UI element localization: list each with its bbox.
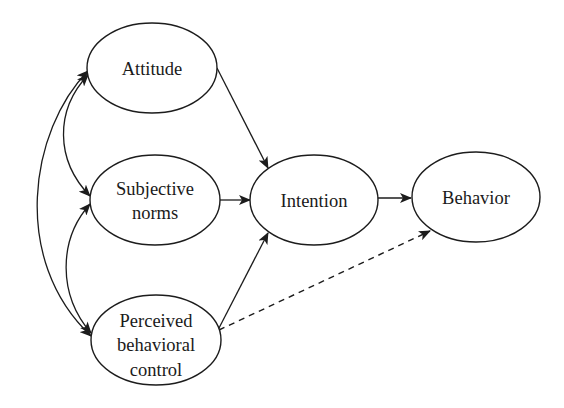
correlation-attitude-subjective-norms	[63, 75, 90, 196]
node-attitude-label: Attitude	[122, 59, 183, 79]
node-subjective-norms-ellipse	[90, 155, 220, 245]
node-behavior-label: Behavior	[442, 188, 510, 208]
correlation-attitude-pbc	[37, 71, 91, 336]
arrow-pbc-to-intention	[218, 233, 268, 330]
node-subjective-norms-label-line1: Subjective	[116, 179, 194, 199]
node-attitude: Attitude	[87, 23, 217, 113]
node-behavior: Behavior	[412, 152, 540, 242]
node-subjective-norms: Subjective norms	[90, 155, 220, 245]
node-intention-label: Intention	[281, 191, 348, 211]
node-subjective-norms-label-line2: norms	[132, 203, 178, 223]
node-intention: Intention	[250, 155, 378, 245]
node-pbc-label-line2: behavioral	[117, 335, 195, 355]
theory-of-planned-behavior-diagram: Attitude Subjective norms Perceived beha…	[0, 0, 564, 408]
node-perceived-behavioral-control: Perceived behavioral control	[91, 295, 221, 385]
node-pbc-label-line3: control	[130, 360, 182, 380]
correlation-subjective-norms-pbc	[66, 204, 91, 333]
dashed-arrow-pbc-to-behavior	[219, 231, 430, 330]
arrow-attitude-to-intention	[217, 68, 268, 168]
node-pbc-label-line1: Perceived	[120, 311, 194, 331]
